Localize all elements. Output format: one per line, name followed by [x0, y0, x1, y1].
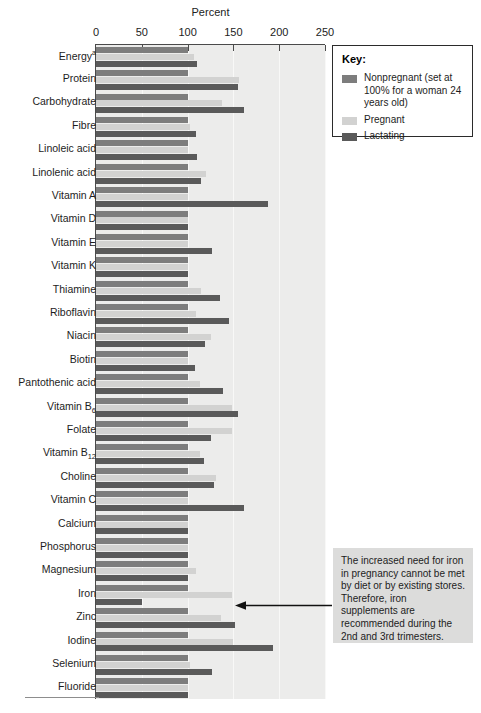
- bar-vitamin-b12-nonpregnant: [96, 444, 188, 450]
- y-axis-label-protein: Protein: [0, 72, 96, 84]
- x-axis-tick-labels: 050100150200250: [96, 26, 325, 40]
- bar-group-vitamin-k: [96, 256, 325, 279]
- y-axis-label-iodine: Iodine: [0, 634, 96, 646]
- bar-iodine-lactating: [96, 645, 273, 651]
- bar-phosphorus-lactating: [96, 552, 188, 558]
- bar-linolenic-acid-pregnant: [96, 171, 206, 177]
- bar-vitamin-b6-pregnant: [96, 405, 232, 411]
- bar-folate-nonpregnant: [96, 421, 188, 427]
- y-axis-label-zinc: Zinc: [0, 610, 96, 622]
- legend-item-nonpregnant: Nonpregnant (set at 100% for a woman 24 …: [342, 72, 464, 110]
- bar-protein-nonpregnant: [96, 70, 188, 76]
- y-axis-label-folate: Folate: [0, 423, 96, 435]
- bar-group-niacin: [96, 326, 325, 349]
- bar-pantothenic-acid-lactating: [96, 388, 223, 394]
- bar-iodine-nonpregnant: [96, 632, 188, 638]
- bar-linoleic-acid-lactating: [96, 154, 197, 160]
- y-axis-label-pantothenic-acid: Pantothenic acid: [0, 376, 96, 388]
- legend-title: Key:: [342, 53, 464, 65]
- bar-riboflavin-lactating: [96, 318, 229, 324]
- bar-carbohydrate-pregnant: [96, 100, 222, 106]
- bar-iodine-pregnant: [96, 639, 233, 645]
- y-axis-label-carbohydrate: Carbohydrate: [0, 95, 96, 107]
- x-tick-label-200: 200: [270, 26, 288, 38]
- bar-fluoride-pregnant: [96, 685, 188, 691]
- y-axis-label-iron: Iron: [0, 587, 96, 599]
- bar-pantothenic-acid-nonpregnant: [96, 374, 188, 380]
- bar-group-calcium: [96, 513, 325, 536]
- y-axis-label-vitamin-k: Vitamin K: [0, 259, 96, 271]
- bar-iron-pregnant: [96, 592, 232, 598]
- bar-vitamin-e-lactating: [96, 248, 212, 254]
- nutrient-requirements-bar-chart: Percent 050100150200250 Key: Nonpregnant…: [0, 0, 481, 713]
- bar-magnesium-lactating: [96, 575, 188, 581]
- bar-thiamine-nonpregnant: [96, 281, 188, 287]
- bar-group-choline: [96, 466, 325, 489]
- bar-biotin-lactating: [96, 365, 195, 371]
- x-tick-label-250: 250: [316, 26, 334, 38]
- y-axis-label-calcium: Calcium: [0, 517, 96, 529]
- y-axis-label-vitamin-a: Vitamin A: [0, 189, 96, 201]
- bar-linoleic-acid-nonpregnant: [96, 140, 188, 146]
- bar-group-pantothenic-acid: [96, 373, 325, 396]
- bar-vitamin-e-pregnant: [96, 241, 188, 247]
- y-axis-label-biotin: Biotin: [0, 353, 96, 365]
- bar-iron-lactating: [96, 599, 142, 605]
- bar-vitamin-b6-lactating: [96, 411, 238, 417]
- footnote-divider: [25, 697, 99, 698]
- bar-choline-nonpregnant: [96, 468, 188, 474]
- bar-group-vitamin-b6: [96, 396, 325, 419]
- bar-iron-nonpregnant: [96, 585, 188, 591]
- y-axis-label-thiamine: Thiamine: [0, 283, 96, 295]
- bar-vitamin-a-lactating: [96, 201, 268, 207]
- bar-riboflavin-pregnant: [96, 311, 196, 317]
- bar-phosphorus-nonpregnant: [96, 538, 188, 544]
- bar-vitamin-b12-pregnant: [96, 451, 200, 457]
- bar-group-vitamin-c: [96, 489, 325, 512]
- x-tick-mark-250: [325, 45, 326, 51]
- bar-folate-pregnant: [96, 428, 232, 434]
- bar-group-iodine: [96, 630, 325, 653]
- bar-vitamin-d-lactating: [96, 224, 188, 230]
- bar-group-riboflavin: [96, 302, 325, 325]
- bar-vitamin-k-pregnant: [96, 264, 188, 270]
- y-axis-label-niacin: Niacin: [0, 329, 96, 341]
- bar-niacin-nonpregnant: [96, 327, 188, 333]
- bar-thiamine-pregnant: [96, 288, 201, 294]
- bar-selenium-nonpregnant: [96, 655, 188, 661]
- y-axis-label-phosphorus: Phosphorus: [0, 540, 96, 552]
- bar-group-linoleic-acid: [96, 139, 325, 162]
- bar-carbohydrate-nonpregnant: [96, 94, 188, 100]
- bar-fibre-pregnant: [96, 124, 190, 130]
- bar-group-magnesium: [96, 560, 325, 583]
- x-tick-label-150: 150: [224, 26, 242, 38]
- bar-vitamin-k-lactating: [96, 271, 188, 277]
- bar-selenium-lactating: [96, 669, 212, 675]
- y-axis-label-fibre: Fibre: [0, 119, 96, 131]
- bar-biotin-pregnant: [96, 358, 188, 364]
- bar-choline-pregnant: [96, 475, 216, 481]
- bar-calcium-lactating: [96, 528, 188, 534]
- bar-vitamin-k-nonpregnant: [96, 257, 188, 263]
- bar-group-carbohydrate: [96, 92, 325, 115]
- bar-vitamin-e-nonpregnant: [96, 234, 188, 240]
- bar-fluoride-nonpregnant: [96, 678, 188, 684]
- bar-energy-pregnant: [96, 54, 194, 60]
- bar-group-vitamin-a: [96, 185, 325, 208]
- bar-biotin-nonpregnant: [96, 351, 188, 357]
- bar-zinc-lactating: [96, 622, 235, 628]
- y-axis-label-linolenic-acid: Linolenic acid: [0, 166, 96, 178]
- bar-group-energy: [96, 45, 325, 68]
- y-axis-label-magnesium: Magnesium: [0, 563, 96, 575]
- y-axis-label-vitamin-b12: Vitamin B12: [0, 446, 96, 461]
- bar-magnesium-nonpregnant: [96, 561, 188, 567]
- bar-linolenic-acid-nonpregnant: [96, 164, 188, 170]
- bar-vitamin-c-pregnant: [96, 498, 188, 504]
- y-axis-label-vitamin-c: Vitamin C: [0, 493, 96, 505]
- bar-group-folate: [96, 419, 325, 442]
- bar-group-linolenic-acid: [96, 162, 325, 185]
- bar-vitamin-a-nonpregnant: [96, 187, 188, 193]
- x-tick-label-0: 0: [93, 26, 99, 38]
- bar-group-phosphorus: [96, 536, 325, 559]
- bar-group-biotin: [96, 349, 325, 372]
